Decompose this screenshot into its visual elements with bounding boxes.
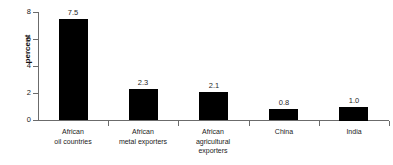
y-axis-tick	[33, 66, 38, 67]
y-axis-tick-label: 4	[5, 62, 31, 70]
x-axis-category-label: India	[319, 127, 389, 137]
y-axis-tick-label-wrap: 8	[0, 8, 31, 16]
y-axis-tick-label-wrap: 6	[0, 35, 31, 43]
x-axis-category-label-line: oil countries	[38, 137, 108, 147]
bar	[339, 107, 368, 121]
x-axis-category-label: China	[249, 127, 319, 137]
x-axis-tick	[108, 121, 109, 126]
bar-chart: percent 02468 7.52.32.10.81.0 Africanoil…	[0, 0, 393, 165]
bar-value-label: 1.0	[334, 96, 374, 105]
bar-value-label: 7.5	[53, 8, 93, 17]
bar	[199, 92, 228, 120]
x-axis-tick	[319, 121, 320, 126]
y-axis-tick	[33, 12, 38, 13]
y-axis-tick-label: 0	[5, 116, 31, 124]
x-axis-category-label-line: African	[38, 127, 108, 137]
x-axis-category-label-line: metal exporters	[108, 137, 178, 147]
bar-value-label: 2.1	[194, 81, 234, 90]
y-axis-tick-label: 2	[5, 89, 31, 97]
y-axis-tick-label-wrap: 4	[0, 62, 31, 70]
bar-value-label: 2.3	[123, 78, 163, 87]
bar-value-label: 0.8	[264, 98, 304, 107]
x-axis-category-label: Africanmetal exporters	[108, 127, 178, 146]
bar	[59, 19, 88, 120]
y-axis-tick	[33, 120, 38, 121]
x-axis-line	[38, 120, 389, 121]
y-axis-tick	[33, 93, 38, 94]
x-axis-category-label: Africanoil countries	[38, 127, 108, 146]
x-axis-category-label-line: African	[178, 127, 248, 137]
x-axis-category-label: Africanagriculturalexporters	[178, 127, 248, 156]
y-axis-tick-label: 8	[5, 8, 31, 16]
bar	[129, 89, 158, 120]
x-axis-category-label-line: China	[249, 127, 319, 137]
y-axis-tick-label-wrap: 2	[0, 89, 31, 97]
x-axis-category-label-line: agricultural	[178, 137, 248, 147]
x-axis-category-label-line: African	[108, 127, 178, 137]
bar	[269, 109, 298, 120]
y-axis-line	[38, 12, 39, 121]
x-axis-category-label-line: exporters	[178, 146, 248, 156]
x-axis-tick	[389, 121, 390, 126]
x-axis-category-label-line: India	[319, 127, 389, 137]
y-axis-tick-label-wrap: 0	[0, 116, 31, 124]
y-axis-tick-label: 6	[5, 35, 31, 43]
y-axis-tick	[33, 39, 38, 40]
x-axis-tick	[178, 121, 179, 126]
x-axis-tick	[249, 121, 250, 126]
